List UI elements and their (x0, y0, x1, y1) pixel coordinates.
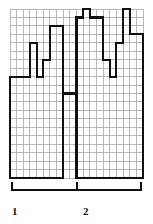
histogram-plot (0, 0, 153, 224)
histogram-figure: 1 2 (0, 0, 153, 224)
axis-bracket (12, 183, 141, 190)
group-label-2: 2 (83, 206, 89, 217)
group-label-1: 1 (12, 206, 18, 217)
